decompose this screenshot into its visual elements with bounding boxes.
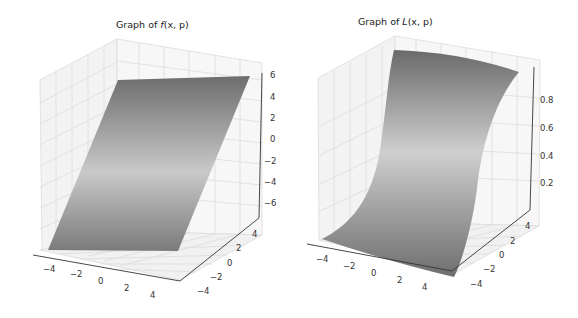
svg-text:−6: −6 [264, 198, 277, 208]
svg-text:2: 2 [236, 243, 241, 253]
svg-text:0: 0 [371, 268, 376, 278]
plot-f: Graph of f(x, p) [33, 19, 277, 300]
plot-f-title: Graph of f(x, p) [116, 19, 189, 30]
svg-text:−2: −2 [210, 272, 223, 282]
svg-text:4: 4 [252, 229, 257, 239]
svg-text:0: 0 [98, 276, 103, 286]
svg-text:0.4: 0.4 [540, 151, 554, 161]
svg-text:−2: −2 [483, 264, 496, 274]
svg-text:0: 0 [499, 250, 504, 260]
plot-f-z-ticks: 6 4 2 0 −2 −4 −6 [264, 70, 277, 208]
plot-l: Graph of L(x, p) [307, 16, 554, 292]
svg-text:−4: −4 [264, 177, 277, 187]
svg-text:−2: −2 [343, 261, 356, 271]
svg-text:4: 4 [525, 221, 530, 231]
svg-text:−4: −4 [470, 279, 483, 289]
svg-text:−4: −4 [43, 264, 56, 274]
svg-text:2: 2 [124, 283, 129, 293]
svg-text:0.8: 0.8 [540, 95, 554, 105]
figure: Graph of f(x, p) [0, 0, 578, 318]
plot-l-z-ticks: 0.8 0.6 0.4 0.2 [540, 95, 554, 188]
svg-text:−2: −2 [264, 156, 277, 166]
svg-text:4: 4 [270, 92, 275, 102]
svg-text:2: 2 [510, 236, 515, 246]
svg-text:0.2: 0.2 [540, 178, 554, 188]
svg-text:4: 4 [422, 282, 427, 292]
svg-text:2: 2 [397, 275, 402, 285]
plot-l-title: Graph of L(x, p) [358, 16, 433, 27]
svg-text:0.6: 0.6 [540, 123, 554, 133]
svg-text:2: 2 [270, 113, 275, 123]
svg-text:0: 0 [227, 258, 232, 268]
svg-text:4: 4 [150, 290, 155, 300]
svg-text:−4: −4 [316, 254, 329, 264]
svg-text:−2: −2 [70, 269, 83, 279]
svg-text:0: 0 [270, 134, 275, 144]
svg-text:6: 6 [270, 70, 275, 80]
svg-text:−4: −4 [197, 286, 210, 296]
